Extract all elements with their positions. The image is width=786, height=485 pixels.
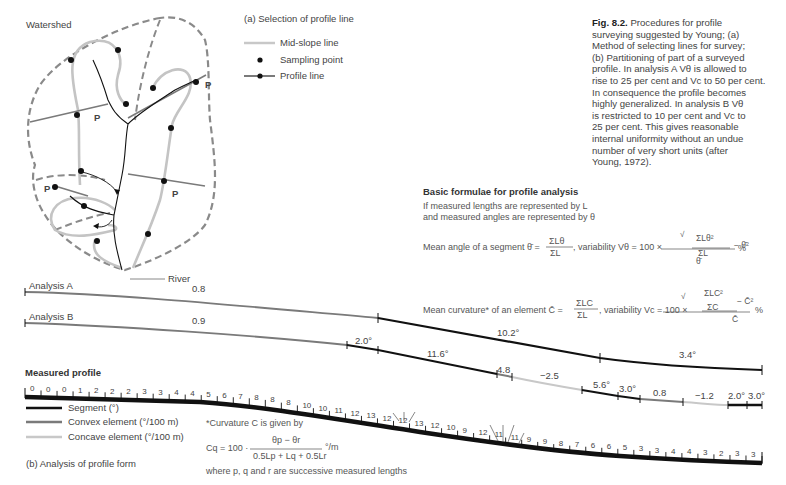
measured-value: 11 bbox=[495, 430, 503, 439]
measured-value: 13 bbox=[415, 419, 424, 428]
mean-angle-variability: , variability Vθ = 100 × bbox=[573, 242, 662, 252]
formulae-title: Basic formulae for profile analysis bbox=[423, 186, 578, 197]
percent-2: % bbox=[755, 305, 763, 315]
mean-curv-numerator: ΣLC bbox=[576, 298, 593, 308]
legend-sampling-label: Sampling point bbox=[280, 54, 343, 65]
mean-curv-root-den: ΣC bbox=[707, 302, 718, 312]
measured-value: 8 bbox=[286, 398, 290, 407]
figure-caption: Fig. 8.2. Procedures for profile surveyi… bbox=[592, 17, 782, 168]
analysis-b-value-6: 5.6° bbox=[593, 379, 610, 390]
sqrt-symbol-1: √ bbox=[680, 230, 684, 239]
analysis-a-value-1: 0.8 bbox=[192, 283, 205, 294]
measured-value: 6 bbox=[591, 441, 595, 450]
measured-value: 0 bbox=[30, 384, 34, 393]
analysis-b-value-10: 2.0° bbox=[728, 390, 745, 401]
measured-value: 3 bbox=[142, 387, 146, 396]
measured-value: 3 bbox=[751, 450, 755, 459]
watershed-boundary bbox=[28, 17, 215, 270]
measured-value: 6 bbox=[607, 442, 611, 451]
mean-angle-denominator: ΣL bbox=[550, 248, 561, 258]
measured-value: 9 bbox=[527, 435, 531, 444]
where-text: where p, q and r are successive measured… bbox=[206, 466, 407, 476]
measured-value: 4 bbox=[190, 389, 194, 398]
measured-value: 5 bbox=[206, 390, 210, 399]
analysis-a-profile bbox=[25, 288, 762, 375]
measured-value: 10 bbox=[447, 423, 456, 432]
measured-value: 3 bbox=[655, 446, 659, 455]
analysis-subtitle: (b) Analysis of profile form bbox=[26, 458, 136, 469]
measured-value: 3 bbox=[158, 388, 162, 397]
measured-value: 4 bbox=[671, 447, 675, 456]
legend-segment-label: Segment (°) bbox=[68, 402, 119, 413]
analysis-b-value-7: 3.0° bbox=[619, 383, 636, 394]
measured-value: 11 bbox=[511, 433, 519, 442]
formulae-intro-1: If measured lengths are represented by L bbox=[423, 201, 588, 211]
mean-curvature-label: Mean curvature* of an element C̄ = bbox=[423, 305, 563, 315]
analysis-a-label: Analysis A bbox=[29, 280, 73, 291]
mean-angle-bottom: θ̄ bbox=[696, 256, 701, 266]
measured-value: 12 bbox=[382, 414, 391, 423]
measured-value: 12 bbox=[479, 428, 488, 437]
measured-value: 13 bbox=[366, 411, 375, 420]
measured-value: 11 bbox=[334, 406, 342, 415]
measured-value: 0 bbox=[62, 385, 66, 394]
mean-curv-root-num: ΣLC² bbox=[704, 288, 723, 298]
measured-profile-title: Measured profile bbox=[25, 367, 101, 378]
analysis-b-value-3: 11.6° bbox=[427, 348, 449, 359]
measured-value: 0 bbox=[46, 385, 50, 394]
profile-marker-p2: P bbox=[205, 79, 211, 90]
percent-1: % bbox=[738, 243, 746, 253]
mean-curv-variability: , variability Vc = 100 × bbox=[599, 305, 688, 315]
measured-value: 9 bbox=[463, 426, 467, 435]
measured-value: 5 bbox=[623, 443, 627, 452]
measured-value: 10 bbox=[302, 401, 311, 410]
mean-curv-minus: − C̄² bbox=[737, 296, 753, 306]
profile-marker-p1: P bbox=[94, 112, 100, 123]
analysis-a-value-2: 10.2° bbox=[497, 327, 519, 338]
curvature-note: *Curvature C is given by bbox=[206, 418, 303, 428]
mean-curv-bottom: C̄ bbox=[732, 314, 738, 324]
measured-value: 12 bbox=[399, 416, 408, 425]
measured-value: 12 bbox=[431, 421, 440, 430]
formulae-intro-2: and measured angles are represented by θ bbox=[423, 212, 595, 222]
cq-prefix: Cq = 100 · bbox=[206, 443, 248, 453]
measured-value: 12 bbox=[350, 409, 359, 418]
mean-angle-root-num: ΣLθ² bbox=[696, 233, 714, 243]
measured-value: 9 bbox=[543, 437, 547, 446]
mean-curv-denominator: ΣL bbox=[577, 310, 588, 320]
analysis-b-value-11: 3.0° bbox=[748, 390, 765, 401]
analysis-b-label: Analysis B bbox=[29, 311, 73, 322]
measured-value: 8 bbox=[254, 393, 258, 402]
legend-a-title: (a) Selection of profile line bbox=[244, 13, 354, 24]
mean-angle-label: Mean angle of a segment θ̄ = bbox=[423, 242, 540, 252]
measured-value: 2 bbox=[110, 387, 114, 396]
measured-value: 7 bbox=[238, 392, 242, 401]
caption-title: Fig. 8.2. bbox=[592, 17, 628, 28]
profile-marker-p4: P bbox=[172, 188, 178, 199]
measured-value: 3 bbox=[639, 444, 643, 453]
river-label: River bbox=[168, 273, 190, 284]
measured-value: 2 bbox=[126, 387, 130, 396]
sqrt-symbol-2: √ bbox=[681, 292, 685, 301]
measured-value: 2 bbox=[719, 449, 723, 458]
analysis-b-value-2: 2.0° bbox=[355, 335, 372, 346]
cq-denominator: 0.5Lp + Lq + 0.5Lr bbox=[253, 451, 327, 461]
measured-value: 4 bbox=[174, 388, 178, 397]
analysis-b-value-1: 0.9 bbox=[192, 315, 205, 326]
mean-angle-numerator: ΣLθ bbox=[549, 236, 565, 246]
profile-marker-p3: P bbox=[44, 183, 50, 194]
measured-value: 8 bbox=[559, 439, 563, 448]
analysis-b-value-5: −2.5 bbox=[540, 370, 559, 381]
measured-value: 4 bbox=[687, 447, 691, 456]
measured-value: 1 bbox=[78, 386, 82, 395]
legend-convex-label: Convex element (°/100 m) bbox=[68, 416, 178, 427]
analysis-b-value-9: −1.2 bbox=[695, 390, 714, 401]
analysis-b-value-4: 4.8 bbox=[497, 364, 510, 375]
legend-concave-label: Concave element (°/100 m) bbox=[68, 431, 184, 442]
cq-numerator: θp − θr bbox=[272, 435, 300, 445]
cq-unit: °/m bbox=[325, 442, 339, 452]
measured-value: 8 bbox=[270, 395, 274, 404]
measured-value: 7 bbox=[575, 440, 579, 449]
analysis-b-value-8: 0.8 bbox=[653, 387, 666, 398]
legend-profileline-label: Profile line bbox=[280, 70, 324, 81]
